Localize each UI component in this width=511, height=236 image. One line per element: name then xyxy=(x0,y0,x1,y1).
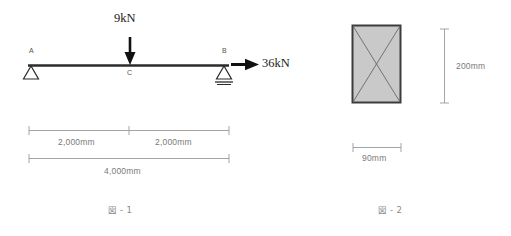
node-label-c: C xyxy=(127,69,132,76)
dimension-line-width xyxy=(353,143,401,152)
figure-1-graphics xyxy=(0,0,511,236)
diagram-canvas: A C B 9kN 36kN 2,000mm 2,000mm 4,000mm 2… xyxy=(0,0,511,236)
load-arrow-9kn xyxy=(125,37,136,65)
load-arrow-36kn xyxy=(231,59,259,70)
dimension-label-height: 200mm xyxy=(456,61,485,71)
load-label-36kn: 36kN xyxy=(262,56,290,71)
figure-1-caption: 図 - 1 xyxy=(0,203,240,215)
node-label-a: A xyxy=(29,47,34,54)
dimension-label-span-left: 2,000mm xyxy=(58,137,95,147)
load-label-9kn: 9kN xyxy=(114,11,136,26)
node-label-b: B xyxy=(222,47,227,54)
support-roller-b xyxy=(215,66,233,85)
support-pin-a xyxy=(24,66,39,79)
figure-2-graphics xyxy=(353,26,450,153)
figure-2-caption: 図 - 2 xyxy=(300,203,480,215)
dimension-label-span-total: 4,000mm xyxy=(104,166,141,176)
dimension-label-span-right: 2,000mm xyxy=(155,137,192,147)
dimension-line-spans xyxy=(29,126,229,135)
dimension-line-height xyxy=(440,29,449,103)
dimension-label-width: 90mm xyxy=(362,153,386,163)
dimension-line-total xyxy=(29,154,229,163)
